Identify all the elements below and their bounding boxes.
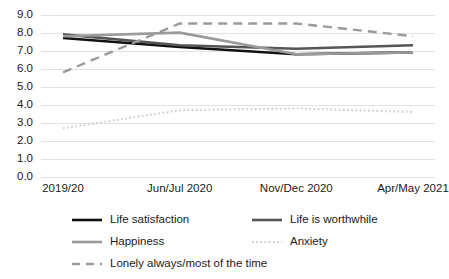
y-axis-tick-label: 6.0	[0, 63, 33, 75]
y-axis-tick-label: 4.0	[0, 99, 33, 111]
y-axis-tick-label: 2.0	[0, 135, 33, 147]
legend-label: Anxiety	[290, 236, 328, 248]
x-axis: 2019/20Jun/Jul 2020Nov/Dec 2020Apr/May 2…	[41, 183, 435, 201]
legend-row: Life satisfactionLife is worthwhile	[72, 209, 422, 231]
legend-swatch-icon	[252, 237, 282, 247]
legend-row: Lonely always/most of the time	[72, 253, 422, 275]
chart-legend: Life satisfactionLife is worthwhileHappi…	[72, 209, 422, 275]
legend-swatch-icon	[252, 215, 282, 225]
legend-swatch-icon	[72, 237, 102, 247]
y-axis-tick-label: 1.0	[0, 153, 33, 165]
legend-label: Life satisfaction	[110, 214, 189, 226]
y-axis-tick-label: 0.0	[0, 171, 33, 183]
legend-label: Life is worthwhile	[290, 214, 378, 226]
legend-label: Lonely always/most of the time	[110, 258, 267, 270]
legend-swatch-icon	[72, 215, 102, 225]
legend-item[interactable]: Life is worthwhile	[252, 209, 422, 231]
x-axis-tick-label: Nov/Dec 2020	[260, 183, 333, 195]
x-axis-tick-label: 2019/20	[42, 183, 84, 195]
y-axis-tick-label: 7.0	[0, 45, 33, 57]
y-axis-tick-label: 9.0	[0, 9, 33, 21]
x-axis-tick-label: Jun/Jul 2020	[147, 183, 212, 195]
legend-item[interactable]: Lonely always/most of the time	[72, 253, 252, 275]
legend-item[interactable]: Anxiety	[252, 231, 422, 253]
y-axis-tick-label: 8.0	[0, 27, 33, 39]
x-axis-tick-label: Apr/May 2021	[377, 183, 449, 195]
legend-label: Happiness	[110, 236, 164, 248]
legend-item[interactable]: Happiness	[72, 231, 252, 253]
y-axis: 9.08.07.06.05.04.03.02.01.00.0	[41, 0, 435, 179]
legend-swatch-icon	[72, 259, 102, 269]
legend-item[interactable]: Life satisfaction	[72, 209, 252, 231]
y-axis-tick-label: 5.0	[0, 81, 33, 93]
legend-row: HappinessAnxiety	[72, 231, 422, 253]
y-axis-tick-label: 3.0	[0, 117, 33, 129]
